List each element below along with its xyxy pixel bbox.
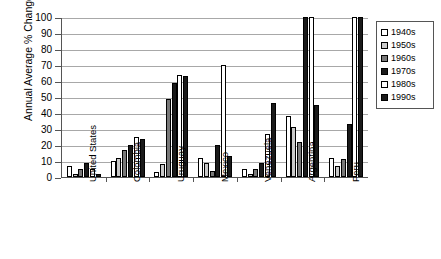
- chart-container: Annual Average % Change 1009080706050403…: [0, 0, 441, 259]
- bar: [67, 166, 72, 177]
- x-category-label-text: Colombia: [131, 142, 142, 182]
- bar: [335, 166, 340, 177]
- bar-group: [62, 18, 106, 177]
- legend: 1940s1950s1960s1970s1980s1990s: [376, 21, 434, 109]
- x-category-label-text: Argentina: [306, 141, 317, 182]
- legend-label: 1960s: [391, 54, 416, 63]
- bar: [73, 174, 78, 177]
- bar-group: [193, 18, 237, 177]
- bar: [166, 99, 171, 177]
- legend-label: 1980s: [391, 80, 416, 89]
- bar: [352, 17, 357, 177]
- bar: [248, 174, 253, 177]
- plot-area: [61, 18, 368, 178]
- bar: [341, 159, 346, 177]
- y-tick-mark: [55, 178, 61, 179]
- bar: [329, 158, 334, 177]
- legend-item: 1950s: [381, 39, 430, 52]
- y-tick-label: 60: [26, 77, 52, 87]
- x-category-label-text: United States: [87, 125, 98, 182]
- legend-item: 1990s: [381, 91, 430, 104]
- bar: [242, 169, 247, 177]
- bar: [291, 127, 296, 177]
- bar-groups: [62, 18, 368, 177]
- legend-item: 1980s: [381, 78, 430, 91]
- legend-swatch: [381, 55, 388, 62]
- x-tick-mark: [193, 177, 194, 182]
- legend-item: 1970s: [381, 65, 430, 78]
- bar: [198, 158, 203, 177]
- bar: [358, 17, 363, 177]
- bar: [204, 163, 209, 177]
- bar: [297, 142, 302, 177]
- legend-swatch: [381, 42, 388, 49]
- y-tick-label: 100: [26, 13, 52, 23]
- legend-label: 1950s: [391, 41, 416, 50]
- x-tick-mark: [324, 177, 325, 182]
- y-tick-label: 30: [26, 125, 52, 135]
- bar-group: [106, 18, 150, 177]
- bar: [78, 169, 83, 177]
- y-tick-label: 20: [26, 141, 52, 151]
- x-category-label-text: Peru: [350, 162, 361, 182]
- bar: [122, 150, 127, 177]
- legend-item: 1940s: [381, 26, 430, 39]
- y-tick-label: 50: [26, 93, 52, 103]
- bar: [111, 161, 116, 177]
- x-tick-mark: [106, 177, 107, 182]
- legend-label: 1990s: [391, 93, 416, 102]
- y-tick-label: 0: [26, 173, 52, 183]
- bar: [210, 171, 215, 177]
- y-tick-label: 80: [26, 45, 52, 55]
- bar: [154, 172, 159, 177]
- legend-swatch: [381, 68, 388, 75]
- bar-group: [324, 18, 368, 177]
- y-tick-label: 70: [26, 61, 52, 71]
- x-category-label-text: Venezuela: [262, 138, 273, 182]
- bar-group: [149, 18, 193, 177]
- legend-swatch: [381, 29, 388, 36]
- x-category-label-text: Uruguay: [175, 146, 186, 182]
- y-tick-label: 40: [26, 109, 52, 119]
- x-tick-mark: [281, 177, 282, 182]
- legend-item: 1960s: [381, 52, 430, 65]
- legend-swatch: [381, 94, 388, 101]
- legend-label: 1970s: [391, 67, 416, 76]
- bar: [253, 169, 258, 177]
- bar: [286, 116, 291, 177]
- bar-group: [237, 18, 281, 177]
- y-tick-label: 10: [26, 157, 52, 167]
- legend-swatch: [381, 81, 388, 88]
- legend-label: 1940s: [391, 28, 416, 37]
- bar: [160, 164, 165, 177]
- bar-group: [281, 18, 325, 177]
- x-tick-mark: [237, 177, 238, 182]
- x-category-label-text: Mexico: [219, 152, 230, 182]
- x-tick-mark: [149, 177, 150, 182]
- y-tick-label: 90: [26, 29, 52, 39]
- bar: [116, 158, 121, 177]
